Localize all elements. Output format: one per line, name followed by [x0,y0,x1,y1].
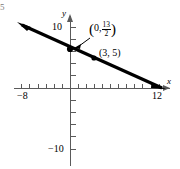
x-axis-ticks [22,84,159,88]
y-axis-arrowhead [67,14,73,22]
x-coordinate-text: 0, [94,22,102,33]
axes-group [14,16,170,166]
y-axis-label: y [62,8,66,18]
close-paren: ) [111,21,116,37]
point-label-3-5: (3, 5) [99,47,121,58]
x-tick-label-minus-8: −8 [17,90,28,101]
y-tick-label-minus-10: −10 [48,143,64,154]
x-axis-label: x [167,76,171,86]
point-y-intercept [67,46,73,52]
fraction-thirteen-halves: 132 [102,21,112,37]
point-3-5 [91,55,96,60]
figure-container: 5 [0,0,180,169]
y-tick-label-10: 10 [52,21,62,32]
y-intercept-label: (0,132) [89,21,116,37]
x-tick-label-12: 12 [152,90,162,101]
